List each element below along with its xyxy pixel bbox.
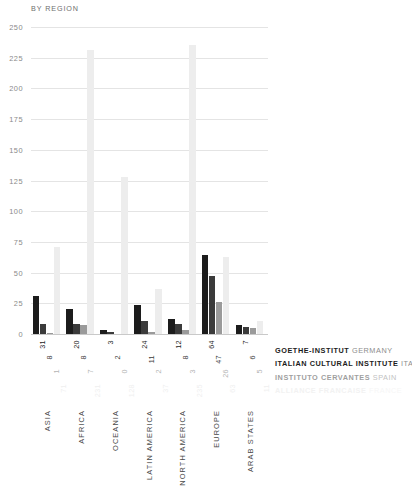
legend-organization-label: INSTITUTO CERVANTES xyxy=(275,373,370,382)
bar xyxy=(80,325,87,334)
bar xyxy=(73,324,80,334)
legend-country-label: ITALY xyxy=(398,359,412,368)
bar-group xyxy=(33,27,61,334)
value-label-column: 318171 xyxy=(33,334,61,404)
bar-value-label: 26 xyxy=(221,369,230,378)
bar xyxy=(141,321,148,335)
bar-group xyxy=(202,27,230,334)
value-label-column: 2087231 xyxy=(66,334,94,404)
legend-organization-label: ALLIANCE FRANCAISE xyxy=(275,386,366,395)
bar-group xyxy=(168,27,196,334)
plot-area xyxy=(31,27,268,334)
bar-value-label: 24 xyxy=(140,340,149,349)
bar-group xyxy=(100,27,128,334)
legend-organization-label: ITALIAN CULTURAL INSTITUTE xyxy=(275,359,398,368)
x-axis-category-label: OCEANIA xyxy=(111,410,120,451)
bar-value-label: 7 xyxy=(241,340,250,344)
bar-value-label: 1 xyxy=(52,369,61,373)
x-axis-category-label: EUROPE xyxy=(212,410,221,448)
y-axis-tick-label: 150 xyxy=(9,145,23,154)
x-axis-category-label: ASIA xyxy=(43,410,52,431)
bar xyxy=(209,276,216,334)
bar xyxy=(40,324,47,334)
bar-value-label: 47 xyxy=(214,355,223,364)
bar-value-label: 3 xyxy=(188,369,197,373)
bar-value-label: 64 xyxy=(207,340,216,349)
bar-group xyxy=(134,27,162,334)
legend-item: GOETHE-INSTITUT GERMANY xyxy=(275,344,412,357)
bar xyxy=(223,257,230,334)
x-axis-category-label: NORTH AMERICA xyxy=(178,410,187,486)
bar xyxy=(87,50,94,334)
y-axis-tick-label: 125 xyxy=(9,176,23,185)
bar xyxy=(189,45,196,334)
bar-group xyxy=(236,27,264,334)
chart-container: BY REGION 2502252001751501251007550250 G… xyxy=(0,0,412,489)
y-axis-tick-label: 50 xyxy=(14,268,23,277)
bar xyxy=(155,289,162,334)
bar-value-label: 8 xyxy=(79,355,88,359)
bar-value-label: 31 xyxy=(38,340,47,349)
bar-value-label: 11 xyxy=(262,384,271,392)
y-axis-tick-label: 225 xyxy=(9,53,23,62)
bar-value-label: 0 xyxy=(120,369,129,373)
y-axis-tick-label: 75 xyxy=(14,237,23,246)
bar xyxy=(236,325,243,334)
y-axis: 2502252001751501251007550250 xyxy=(0,27,29,334)
bar-value-label: 2 xyxy=(113,355,122,359)
bar xyxy=(134,305,141,334)
y-axis-tick-label: 0 xyxy=(18,330,23,339)
bar xyxy=(202,255,209,334)
bar xyxy=(257,321,264,335)
legend-item: INSTITUTO CERVANTES SPAIN xyxy=(275,371,412,384)
bar-value-label: 2 xyxy=(154,369,163,373)
bar xyxy=(66,309,73,334)
y-axis-tick-label: 25 xyxy=(14,299,23,308)
value-label-column: 2411237 xyxy=(134,334,162,404)
bar-value-label: 20 xyxy=(72,340,81,349)
bar xyxy=(33,296,40,334)
legend-item: ALLIANCE FRANCAISE FRANCE xyxy=(275,384,412,397)
x-axis-category-label: ARAB STATES xyxy=(246,410,255,472)
value-label-column: 320128 xyxy=(100,334,128,404)
bar-value-label: 7 xyxy=(86,369,95,373)
bar-value-label: 8 xyxy=(45,355,54,359)
legend-country-label: GERMANY xyxy=(349,346,392,355)
legend-country-label: FRANCE xyxy=(366,386,402,395)
bar-value-label: 3 xyxy=(106,340,115,344)
bar xyxy=(121,177,128,334)
bar xyxy=(175,324,182,334)
bar-group xyxy=(66,27,94,334)
page-title: BY REGION xyxy=(31,4,79,13)
bar xyxy=(216,302,223,334)
bar-value-label: 8 xyxy=(181,355,190,359)
bar-value-label: 6 xyxy=(248,355,257,359)
bar-value-label: 12 xyxy=(174,340,183,349)
legend-country-label: SPAIN xyxy=(370,373,397,382)
legend-organization-label: GOETHE-INSTITUT xyxy=(275,346,349,355)
y-axis-tick-label: 250 xyxy=(9,23,23,32)
bar xyxy=(168,319,175,334)
bar xyxy=(54,247,61,334)
legend: GOETHE-INSTITUT GERMANYITALIAN CULTURAL … xyxy=(275,344,412,398)
x-axis-category-label: AFRICA xyxy=(77,410,86,444)
value-label-column: 1283235 xyxy=(168,334,196,404)
legend-item: ITALIAN CULTURAL INSTITUTE ITALY xyxy=(275,357,412,370)
bar xyxy=(243,327,250,334)
value-label-column: 64472663 xyxy=(202,334,230,404)
bar-value-label: 5 xyxy=(255,369,264,373)
y-axis-tick-label: 100 xyxy=(9,207,23,216)
bar-value-label: 11 xyxy=(147,355,156,363)
y-axis-tick-label: 175 xyxy=(9,115,23,124)
x-axis-category-label: LATIN AMERICA xyxy=(145,410,154,480)
value-label-column: 76511 xyxy=(236,334,264,404)
y-axis-tick-label: 200 xyxy=(9,84,23,93)
